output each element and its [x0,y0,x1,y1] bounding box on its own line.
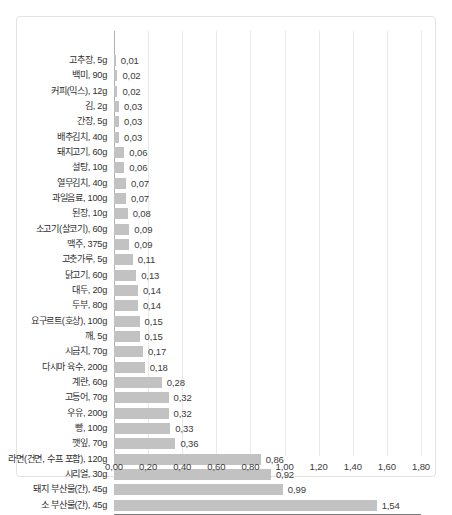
bar-row[interactable]: 배추김치, 40g0,03 [114,130,421,145]
category-label: 맥주, 375g [67,237,107,252]
bar[interactable] [114,254,133,265]
bar-value-label: 0,02 [122,68,140,83]
bar-row[interactable]: 두부, 80g0,14 [114,298,421,313]
category-label: 김, 2g [85,99,107,114]
bar-value-label: 1,54 [382,498,400,513]
bar[interactable] [114,438,175,449]
bar[interactable] [114,362,145,373]
bar[interactable] [114,239,129,250]
bar-row[interactable]: 된장, 10g0,08 [114,206,421,221]
bar[interactable] [114,377,162,388]
bar-row[interactable]: 계란, 60g0,28 [114,375,421,390]
bar-row[interactable]: 고춧가루, 5g0,11 [114,252,421,267]
category-label: 닭고기, 60g [65,268,107,283]
bar-row[interactable]: 깨, 5g0,15 [114,329,421,344]
bar-row[interactable]: 소고기(살코기), 60g0,09 [114,222,421,237]
bar[interactable] [114,132,119,143]
x-tick-label: 1,20 [310,461,328,472]
bar-row[interactable]: 과일음료, 100g0,07 [114,191,421,206]
bar[interactable] [114,55,116,66]
bar-value-label: 0,01 [121,53,139,68]
bar[interactable] [114,300,138,311]
bar-row[interactable]: 돼지고기, 60g0,06 [114,145,421,160]
bar-row[interactable]: 커피(믹스), 12g0,02 [114,84,421,99]
bar-row[interactable]: 고등어, 70g0,32 [114,390,421,405]
bar-value-label: 0,18 [150,360,168,375]
category-label: 빵, 100g [75,421,107,436]
category-label: 라면(건면, 수프 포함), 120g [8,452,107,467]
x-tick-label: 1,60 [378,461,396,472]
bar-value-label: 0,03 [124,114,142,129]
bar-row[interactable]: 우유, 200g0,32 [114,406,421,421]
x-tick-label: 0,20 [139,461,157,472]
category-label: 돼지고기, 60g [57,145,107,160]
bar[interactable] [114,316,140,327]
bar[interactable] [114,346,143,357]
bar[interactable] [114,423,170,434]
category-label: 깨, 5g [85,329,107,344]
bar[interactable] [114,116,119,127]
category-label: 소 부산물(간), 45g [41,498,107,513]
bar-row[interactable]: 백미, 90g0,02 [114,68,421,83]
bar-row[interactable]: 다시마 육수, 200g0,18 [114,360,421,375]
bar[interactable] [114,392,169,403]
bar-row[interactable]: 간장, 5g0,03 [114,114,421,129]
bar-value-label: 0,03 [124,99,142,114]
bar-value-label: 0,17 [148,344,166,359]
bar-value-label: 0,99 [288,482,306,497]
bar-row[interactable]: 설탕, 10g0,06 [114,160,421,175]
bar-row[interactable]: 시금치, 70g0,17 [114,344,421,359]
category-label: 설탕, 10g [72,160,107,175]
category-label: 간장, 5g [77,114,107,129]
x-tick-label: 0,40 [173,461,191,472]
category-label: 고등어, 70g [65,390,107,405]
bar-value-label: 0,09 [134,222,152,237]
bar[interactable] [114,178,126,189]
bar-value-label: 0,15 [145,314,163,329]
bar-row[interactable]: 대두, 20g0,14 [114,283,421,298]
bar[interactable] [114,70,117,81]
bar[interactable] [114,208,128,219]
category-label: 우유, 200g [67,406,107,421]
category-label: 돼지 부산물(간), 45g [33,482,107,497]
category-label: 백미, 90g [72,68,107,83]
bar-value-label: 0,11 [138,252,155,267]
bar[interactable] [114,500,377,511]
x-tick-label: 1,00 [276,461,294,472]
chart-container: 고추장, 5g0,01백미, 90g0,02커피(믹스), 12g0,02김, … [16,16,436,477]
bar-row[interactable]: 깻잎, 70g0,36 [114,436,421,451]
bar[interactable] [114,270,136,281]
bar-row[interactable]: 맥주, 375g0,09 [114,237,421,252]
bar[interactable] [114,86,117,97]
bar-row[interactable]: 소 부산물(간), 45g1,54 [114,498,421,513]
bar-row[interactable]: 열무김치, 40g0,07 [114,176,421,191]
bar[interactable] [114,408,169,419]
bar[interactable] [114,193,126,204]
bar-value-label: 0,14 [143,298,161,313]
bar-row[interactable]: 김, 2g0,03 [114,99,421,114]
bar-row[interactable]: 돼지 부산물(간), 45g0,99 [114,482,421,497]
category-label: 열무김치, 40g [57,176,107,191]
bar[interactable] [114,484,283,495]
bar-value-label: 0,13 [141,268,159,283]
plot-area: 고추장, 5g0,01백미, 90g0,02커피(믹스), 12g0,02김, … [114,31,421,456]
bar[interactable] [114,285,138,296]
bar-row[interactable]: 빵, 100g0,33 [114,421,421,436]
bar[interactable] [114,162,124,173]
bar[interactable] [114,147,124,158]
bar-value-label: 0,15 [145,329,163,344]
bar-row[interactable]: 닭고기, 60g0,13 [114,268,421,283]
bar-row[interactable]: 고추장, 5g0,01 [114,53,421,68]
bar[interactable] [114,101,119,112]
bar-value-label: 0,08 [133,206,151,221]
category-label: 고추장, 5g [69,53,107,68]
bar-value-label: 0,32 [174,390,192,405]
category-label: 두부, 80g [72,298,107,313]
category-label: 대두, 20g [72,283,107,298]
bar-row[interactable]: 요구르트(호상), 100g0,15 [114,314,421,329]
bar[interactable] [114,224,129,235]
bar[interactable] [114,331,140,342]
category-label: 과일음료, 100g [52,191,107,206]
bar-value-label: 0,36 [180,436,198,451]
x-axis-tick-labels: 0,000,200,400,600,801,001,201,401,601,80 [114,461,421,475]
